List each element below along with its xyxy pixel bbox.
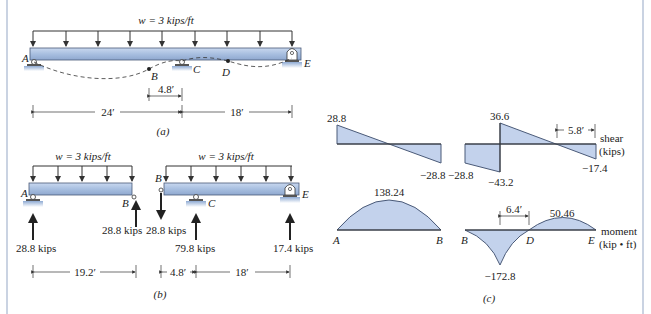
load-label-b-right: w = 3 kips/ft bbox=[198, 150, 254, 162]
load-label-b-left: w = 3 kips/ft bbox=[55, 150, 111, 162]
svg-text:E: E bbox=[301, 188, 309, 200]
panel-c: 28.8 −28.8 −28.8 −43.2 36.6 −17.4 5.8′ s… bbox=[327, 110, 637, 305]
svg-text:4.8′: 4.8′ bbox=[158, 83, 174, 95]
svg-text:−17.4: −17.4 bbox=[582, 162, 608, 174]
reaction-label-E: 17.4 kips bbox=[273, 242, 313, 254]
dimension-4-8: 4.8′ bbox=[149, 83, 182, 101]
point-label-A: A bbox=[21, 52, 29, 64]
deflected-shape bbox=[34, 58, 292, 79]
svg-text:18′: 18′ bbox=[235, 266, 248, 278]
distributed-load-arrows bbox=[33, 31, 292, 46]
panel-a: w = 3 kips/ft bbox=[21, 14, 311, 138]
svg-text:−28.8: −28.8 bbox=[448, 169, 474, 181]
svg-text:18′: 18′ bbox=[230, 106, 243, 118]
beam-a bbox=[30, 48, 301, 60]
svg-text:−28.8: −28.8 bbox=[420, 169, 446, 181]
point-label-C: C bbox=[193, 63, 201, 75]
figure-frame: w = 3 kips/ft bbox=[0, 0, 651, 314]
inflection-point-D bbox=[226, 59, 230, 63]
svg-text:4.8′: 4.8′ bbox=[170, 266, 186, 278]
caption-a: (a) bbox=[157, 125, 170, 138]
hinge-B-left bbox=[132, 195, 136, 199]
shear-diagram-BE: −28.8 −43.2 36.6 −17.4 5.8′ shear (kips) bbox=[448, 110, 625, 188]
svg-text:A: A bbox=[20, 187, 28, 199]
svg-text:B: B bbox=[461, 234, 468, 246]
point-label-D: D bbox=[221, 66, 230, 78]
moment-diagram-AB: 138.24 A B bbox=[332, 186, 443, 246]
roller-support-C-b bbox=[186, 195, 206, 208]
reaction-label-B-left: 28.8 kips bbox=[102, 224, 142, 236]
svg-text:28.8: 28.8 bbox=[327, 112, 347, 124]
svg-text:B: B bbox=[436, 234, 443, 246]
reaction-label-B-right: 28.8 kips bbox=[146, 224, 186, 236]
svg-text:138.24: 138.24 bbox=[374, 186, 405, 198]
svg-text:C: C bbox=[208, 197, 216, 209]
beam-b-left bbox=[29, 183, 132, 195]
svg-text:50.46: 50.46 bbox=[550, 207, 575, 219]
svg-text:A: A bbox=[332, 234, 340, 246]
svg-text:B: B bbox=[155, 172, 162, 184]
svg-text:D: D bbox=[525, 234, 534, 246]
panel-b: w = 3 kips/ft A B 28.8 kips 28.8 kips w … bbox=[16, 150, 313, 301]
hinge-B-right bbox=[159, 188, 163, 192]
svg-text:19.2′: 19.2′ bbox=[74, 266, 96, 278]
svg-text:(kip • ft): (kip • ft) bbox=[599, 238, 637, 251]
dimension-4-8-b: 4.8′ 18′ bbox=[161, 265, 290, 278]
moment-diagram-BE: −172.8 50.46 B D E 6.4′ moment (kip • ft… bbox=[461, 203, 637, 282]
svg-text:B: B bbox=[122, 197, 129, 209]
reaction-label-A: 28.8 kips bbox=[16, 242, 56, 254]
svg-text:−172.8: −172.8 bbox=[485, 270, 516, 282]
svg-text:6.4′: 6.4′ bbox=[506, 203, 522, 215]
moment-unit-label: moment bbox=[601, 225, 637, 237]
svg-text:5.8′: 5.8′ bbox=[568, 124, 584, 136]
svg-text:24′: 24′ bbox=[101, 106, 114, 118]
dimension-19-2: 19.2′ bbox=[33, 265, 136, 278]
load-label-a: w = 3 kips/ft bbox=[138, 14, 194, 26]
point-label-B: B bbox=[151, 70, 158, 82]
caption-c: (c) bbox=[483, 292, 496, 305]
svg-text:36.6: 36.6 bbox=[490, 110, 510, 122]
reaction-label-C: 79.8 kips bbox=[175, 242, 215, 254]
shear-diagram-AB: 28.8 −28.8 bbox=[327, 112, 446, 181]
beam-b-right bbox=[164, 183, 299, 195]
caption-b: (b) bbox=[154, 288, 167, 301]
dimension-24: 24′ 18′ bbox=[33, 105, 292, 118]
shear-unit-label: shear bbox=[600, 132, 624, 144]
svg-text:E: E bbox=[587, 234, 595, 246]
svg-text:(kips): (kips) bbox=[599, 145, 625, 158]
svg-text:−43.2: −43.2 bbox=[488, 176, 513, 188]
roller-support-C bbox=[172, 60, 192, 72]
point-label-E: E bbox=[303, 57, 311, 69]
